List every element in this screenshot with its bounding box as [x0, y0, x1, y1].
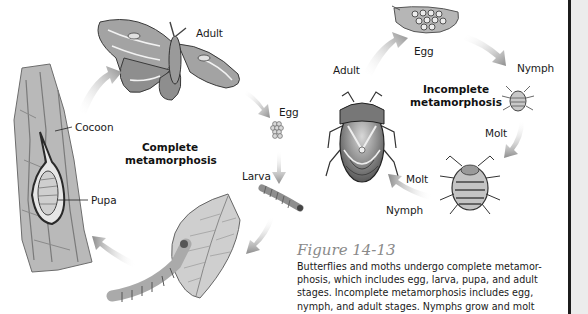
small-nymph-illustration: [502, 86, 534, 111]
arrow-leaf-to-pupa: [92, 236, 136, 268]
label-pupa: Pupa: [91, 194, 117, 206]
label-adult-incomplete: Adult: [333, 64, 360, 76]
arrow-adult-to-egg-incomplete: [364, 32, 408, 76]
incomplete-title-line2: metamorphosis: [406, 96, 506, 109]
caption-line: nymph, and adult stages. Nymphs grow and…: [297, 300, 559, 313]
incomplete-metamorphosis-title: Incomplete metamorphosis: [406, 83, 506, 109]
leaf-eggs-illustration: [392, 6, 459, 33]
egg-cluster-illustration: [271, 122, 284, 139]
incomplete-title-line1: Incomplete: [406, 83, 506, 96]
figure-caption: Butterflies and moths undergo complete m…: [297, 260, 559, 313]
caption-line: Butterflies and moths undergo complete m…: [297, 260, 559, 273]
label-cocoon: Cocoon: [75, 121, 113, 133]
label-egg-complete: Egg: [279, 106, 299, 118]
label-egg-incomplete: Egg: [414, 45, 434, 57]
arrow-adult-to-egg: [244, 90, 270, 118]
label-adult-complete: Adult: [196, 27, 223, 39]
adult-bug-illustration: [326, 92, 398, 182]
complete-metamorphosis-title: Complete metamorphosis: [125, 141, 215, 167]
label-nymph-top: Nymph: [517, 62, 554, 74]
arrow-pupa-to-adult: [78, 66, 122, 114]
label-molt-right: Molt: [485, 127, 507, 139]
arrow-larva-to-leaf: [246, 216, 274, 254]
larva-illustration: [262, 186, 303, 211]
complete-title-line1: Complete: [125, 141, 215, 154]
leaf-caterpillar-illustration: [112, 194, 240, 302]
arrow-egg-to-larva: [272, 150, 286, 184]
arrow-egg-to-nymph: [464, 34, 506, 66]
caption-line: phosis, which includes egg, larva, pupa,…: [297, 273, 559, 286]
label-larva: Larva: [242, 170, 271, 182]
complete-title-line2: metamorphosis: [125, 154, 215, 167]
label-molt-bottom: Molt: [406, 173, 428, 185]
arrow-nymph-to-molt: [504, 120, 524, 158]
figure-title: Figure 14-13: [297, 241, 396, 259]
label-nymph-bottom: Nymph: [386, 204, 423, 216]
medium-nymph-illustration: [440, 156, 500, 214]
page-margin-strip: [568, 0, 588, 314]
caption-line: stages. Incomplete metamorphosis include…: [297, 286, 559, 299]
